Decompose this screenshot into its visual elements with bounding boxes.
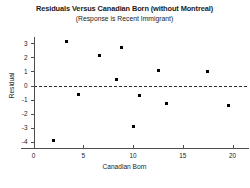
data-point [120,46,123,49]
data-point [65,40,68,43]
zero-reference-line [34,86,250,87]
y-axis-tick-label: 2 [14,54,28,61]
y-axis-tick [31,71,35,72]
y-axis-tick [31,114,35,115]
x-axis-tick [83,145,84,149]
x-axis-tick-label: 20 [223,152,243,159]
y-axis-tick-label: 1 [14,68,28,75]
residual-plot-figure: Residuals Versus Canadian Born (without … [0,0,249,188]
data-point [206,70,209,73]
x-axis-tick-label: 0 [24,152,44,159]
data-point [98,54,101,57]
y-axis-tick-label: -2 [14,110,28,117]
data-point [165,102,168,105]
data-point [77,93,80,96]
x-axis-tick [34,145,35,149]
y-axis-tick-label: -3 [14,124,28,131]
y-axis-title: Residual [7,65,14,105]
y-axis-tick-label: -4 [14,138,28,145]
y-axis-tick [31,86,35,87]
x-axis-tick-label: 5 [73,152,93,159]
data-point [157,69,160,72]
data-point [132,125,135,128]
x-axis-tick [133,145,134,149]
y-axis-tick [31,142,35,143]
x-axis-tick-label: 15 [173,152,193,159]
x-axis-tick [183,145,184,149]
x-axis-title: Canadian Born [0,163,249,170]
y-axis-line [34,37,35,148]
data-point [115,78,118,81]
data-point [227,104,230,107]
y-axis-tick-label: -1 [14,96,28,103]
y-axis-tick-label: 3 [14,40,28,47]
x-axis-tick [233,145,234,149]
y-axis-tick [31,43,35,44]
y-axis-tick [31,128,35,129]
data-point [52,139,55,142]
x-axis-tick-label: 10 [123,152,143,159]
y-axis-tick-label: 0 [14,82,28,89]
data-point [138,94,141,97]
y-axis-tick [31,57,35,58]
y-axis-tick [31,100,35,101]
x-axis-line [21,148,249,149]
plot-area: 3210-1-2-3-405101520 [0,0,249,188]
